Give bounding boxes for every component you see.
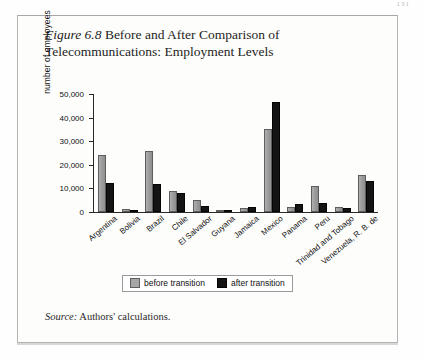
- x-axis-label: Panama: [280, 214, 309, 240]
- source-text: Authors' calculations.: [77, 311, 170, 322]
- bar-after: [248, 207, 256, 212]
- y-tick: 10,000: [89, 188, 93, 189]
- y-tick: 50,000: [89, 94, 93, 95]
- figure-title: Figure 6.8 Before and After Comparison o…: [45, 26, 345, 60]
- y-tick: 0: [89, 212, 93, 213]
- bar-before: [98, 155, 106, 212]
- bar-before: [358, 175, 366, 212]
- y-tick-label: 10,000: [60, 184, 84, 193]
- y-tick-label: 50,000: [60, 90, 84, 99]
- bar-group: [212, 94, 236, 212]
- bar-after: [366, 181, 374, 212]
- bar-group: [307, 94, 331, 212]
- bar-group: [260, 94, 284, 212]
- bar-group: [141, 94, 165, 212]
- y-tick-label: 0: [80, 208, 84, 217]
- chart-legend: before transition after transition: [122, 275, 293, 292]
- x-axis-label: Jamaica: [232, 214, 261, 240]
- bar-group: [331, 94, 355, 212]
- bar-after: [153, 184, 161, 212]
- plot-area: 010,00020,00030,00040,00050,000: [93, 94, 378, 212]
- y-tick-label: 20,000: [60, 160, 84, 169]
- bar-before: [193, 200, 201, 212]
- legend-label-before: before transition: [144, 278, 205, 288]
- bar-chart: number of employees 010,00020,00030,0004…: [44, 78, 384, 268]
- bar-group: [94, 94, 118, 212]
- bar-group: [354, 94, 378, 212]
- bar-before: [264, 129, 272, 212]
- bar-before: [169, 191, 177, 212]
- source-note: Source: Authors' calculations.: [45, 311, 170, 322]
- x-axis-label: Chile: [170, 214, 190, 233]
- bar-before: [240, 208, 248, 212]
- legend-item-after: after transition: [217, 278, 285, 288]
- bar-after: [130, 210, 138, 212]
- page-number: 131: [397, 0, 411, 7]
- bar-before: [122, 209, 130, 212]
- bar-after: [295, 204, 303, 212]
- y-axis-label: number of employees: [42, 4, 52, 100]
- bar-before: [216, 210, 224, 212]
- bar-after: [319, 203, 327, 212]
- bar-after: [201, 206, 209, 212]
- bar-after: [106, 183, 114, 213]
- y-tick-label: 30,000: [60, 137, 84, 146]
- document-page: 131 Figure 6.8 Before and After Comparis…: [0, 0, 424, 360]
- bar-after: [272, 102, 280, 212]
- bar-group: [189, 94, 213, 212]
- bar-before: [287, 207, 295, 212]
- bar-group: [118, 94, 142, 212]
- x-axis-label: Argentina: [86, 214, 118, 243]
- legend-item-before: before transition: [130, 278, 205, 288]
- bar-before: [311, 186, 319, 212]
- y-tick: 30,000: [89, 141, 93, 142]
- source-label: Source:: [45, 311, 77, 322]
- bar-group: [283, 94, 307, 212]
- x-axis-label: Brazil: [145, 214, 166, 234]
- bar-after: [177, 193, 185, 212]
- x-axis-label: Peru: [313, 214, 332, 232]
- bar-group: [165, 94, 189, 212]
- legend-swatch-before-icon: [130, 278, 140, 288]
- legend-label-after: after transition: [231, 278, 285, 288]
- bar-before: [335, 207, 343, 212]
- bar-after: [224, 210, 232, 212]
- x-axis-label: Bolivia: [118, 214, 142, 236]
- bar-group: [236, 94, 260, 212]
- y-tick: 20,000: [89, 165, 93, 166]
- x-axis-labels: ArgentinaBoliviaBrazilChileEl SalvadorGu…: [94, 214, 379, 274]
- legend-swatch-after-icon: [217, 278, 227, 288]
- bar-groups: [94, 94, 378, 212]
- y-tick: 40,000: [89, 118, 93, 119]
- bar-before: [145, 151, 153, 212]
- bar-after: [343, 208, 351, 212]
- y-tick-label: 40,000: [60, 113, 84, 122]
- figure-box: Figure 6.8 Before and After Comparison o…: [17, 15, 398, 343]
- figure-number-label: Figure 6.8: [45, 27, 102, 42]
